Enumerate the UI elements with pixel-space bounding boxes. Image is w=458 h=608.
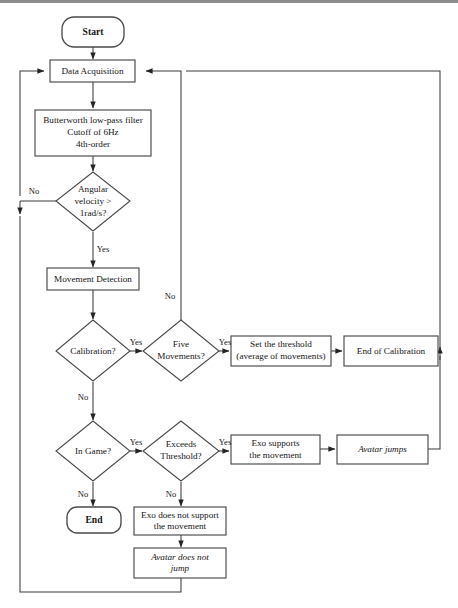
edge-label-calibration-no: No bbox=[78, 392, 89, 402]
exo-supports-label-line1: Exo supports bbox=[251, 438, 300, 448]
filter-label-line3: 4th-order bbox=[76, 139, 110, 149]
edge-avatar-jumps-to-right-rail bbox=[428, 356, 440, 449]
calibration-label: Calibration? bbox=[70, 346, 115, 356]
edge-label-in-game-no: No bbox=[78, 489, 89, 499]
flowchart-canvas: Start Data Acquisition Butterworth low-p… bbox=[0, 0, 458, 608]
avatar-jumps-label: Avatar jumps bbox=[357, 444, 407, 454]
five-movements-label-line1: Five bbox=[173, 339, 189, 349]
edge-label-five-movements-yes: Yes bbox=[219, 337, 232, 347]
edge-label-angular-yes: Yes bbox=[97, 244, 110, 254]
end-of-calibration-label: End of Calibration bbox=[357, 346, 426, 356]
node-movement-detection[interactable]: Movement Detection bbox=[47, 268, 139, 290]
node-calibration-decision[interactable]: Calibration? bbox=[56, 320, 130, 381]
angular-velocity-label-line1: Angular bbox=[78, 184, 108, 194]
angular-velocity-label-line3: 1rad/s? bbox=[80, 208, 107, 218]
node-start[interactable]: Start bbox=[62, 17, 124, 47]
exo-not-support-label-line1: Exo does not support bbox=[141, 510, 219, 520]
node-avatar-not-jump[interactable]: Avatar does not jump bbox=[134, 548, 226, 578]
node-butterworth-filter[interactable]: Butterworth low-pass filter Cutoff of 6H… bbox=[35, 110, 151, 156]
end-label: End bbox=[85, 514, 103, 525]
node-angular-velocity-decision[interactable]: Angular velocity > 1rad/s? bbox=[56, 172, 130, 231]
node-exo-supports[interactable]: Exo supports the movement bbox=[231, 435, 320, 464]
exceeds-threshold-label-line2: Threshold? bbox=[160, 451, 201, 461]
edge-right-rail-top bbox=[186, 71, 440, 351]
edge-label-in-game-yes: Yes bbox=[130, 437, 143, 447]
movement-detection-label: Movement Detection bbox=[54, 274, 132, 284]
edge-label-angular-no: No bbox=[29, 186, 40, 196]
node-exceeds-threshold-decision[interactable]: Exceeds Threshold? bbox=[143, 421, 219, 481]
edge-label-exceeds-no: No bbox=[166, 489, 177, 499]
edge-label-five-movements-no: No bbox=[165, 291, 176, 301]
node-end[interactable]: End bbox=[67, 507, 121, 533]
data-acquisition-label: Data Acquisition bbox=[61, 66, 123, 76]
edge-label-calibration-yes: Yes bbox=[130, 337, 143, 347]
exo-supports-label-line2: the movement bbox=[249, 450, 302, 460]
exo-not-support-label-line2: the movement bbox=[154, 521, 207, 531]
exceeds-threshold-label-line1: Exceeds bbox=[166, 439, 197, 449]
flowchart-svg: Start Data Acquisition Butterworth low-p… bbox=[0, 0, 458, 608]
avatar-not-jump-label-line1: Avatar does not bbox=[150, 552, 209, 562]
five-movements-label-line2: Movements? bbox=[157, 351, 204, 361]
start-label: Start bbox=[83, 26, 105, 37]
edge-five-movements-no-to-data-acquisition bbox=[146, 71, 181, 320]
set-threshold-label-line1: Set the threshold bbox=[250, 339, 312, 349]
filter-label-line2: Cutoff of 6Hz bbox=[67, 127, 118, 137]
node-exo-not-support[interactable]: Exo does not support the movement bbox=[134, 507, 226, 535]
avatar-not-jump-label-line2: jump bbox=[170, 563, 190, 573]
node-five-movements-decision[interactable]: Five Movements? bbox=[143, 320, 219, 381]
filter-label-line1: Butterworth low-pass filter bbox=[43, 115, 143, 125]
edge-label-exceeds-yes: Yes bbox=[219, 437, 232, 447]
set-threshold-label-line2: (average of movements) bbox=[236, 351, 325, 361]
angular-velocity-label-line2: velocity > bbox=[74, 196, 111, 206]
node-in-game-decision[interactable]: In Game? bbox=[56, 421, 130, 481]
in-game-label: In Game? bbox=[75, 446, 111, 456]
node-end-of-calibration[interactable]: End of Calibration bbox=[344, 336, 438, 366]
node-data-acquisition[interactable]: Data Acquisition bbox=[50, 60, 135, 82]
node-avatar-jumps[interactable]: Avatar jumps bbox=[337, 435, 428, 464]
node-set-threshold[interactable]: Set the threshold (average of movements) bbox=[231, 336, 331, 366]
page-top-rule bbox=[0, 0, 458, 3]
